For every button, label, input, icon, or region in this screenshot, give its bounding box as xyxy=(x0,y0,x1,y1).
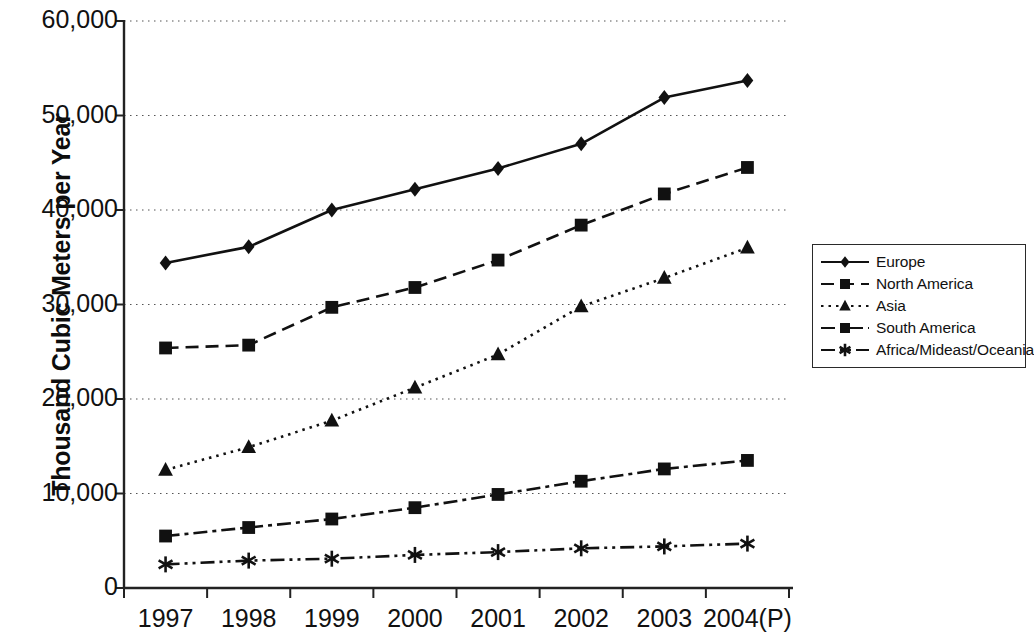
data-point-marker xyxy=(839,300,850,311)
data-point-marker xyxy=(740,240,755,254)
legend-item-north-america[interactable]: North America xyxy=(819,273,1017,295)
x-tick-label: 1998 xyxy=(221,604,277,633)
data-point-marker xyxy=(742,73,754,88)
legend-key-triangle-icon xyxy=(819,296,871,316)
data-point-marker xyxy=(242,339,255,352)
x-tick-label: 2002 xyxy=(553,604,609,633)
data-point-marker xyxy=(159,530,172,543)
data-point-marker xyxy=(492,254,505,267)
data-point-marker xyxy=(741,161,754,174)
y-axis-tick-labels: 60,00050,00040,00030,00020,00010,0000 xyxy=(0,0,118,631)
data-point-marker xyxy=(158,462,173,476)
y-tick-label: 40,000 xyxy=(8,194,118,223)
data-point-marker xyxy=(492,161,504,176)
data-point-marker xyxy=(159,342,172,355)
data-point-marker xyxy=(326,203,338,218)
data-point-marker xyxy=(575,475,588,488)
y-tick-label: 0 xyxy=(8,572,118,601)
series-line xyxy=(166,81,748,263)
legend-label: Africa/Mideast/Oceania xyxy=(871,341,1034,359)
data-point-marker xyxy=(242,521,255,534)
x-tick-label: 1997 xyxy=(138,604,194,633)
legend-label: Asia xyxy=(871,297,906,315)
legend-item-asia[interactable]: Asia xyxy=(819,295,1017,317)
chart-legend: EuropeNorth AmericaAsiaSouth AmericaAfri… xyxy=(812,244,1026,368)
legend-item-south-america[interactable]: South America xyxy=(819,317,1017,339)
legend-key-asterisk-icon xyxy=(819,340,871,360)
y-tick-label: 20,000 xyxy=(8,383,118,412)
legend-label: Europe xyxy=(871,253,925,271)
legend-label: North America xyxy=(871,275,973,293)
y-tick-label: 60,000 xyxy=(8,5,118,34)
data-point-marker xyxy=(409,182,421,197)
data-point-marker xyxy=(658,463,671,476)
y-tick-label: 10,000 xyxy=(8,478,118,507)
x-tick-label: 2004(P) xyxy=(703,604,792,633)
legend-item-europe[interactable]: Europe xyxy=(819,251,1017,273)
data-point-marker xyxy=(325,513,338,526)
data-point-marker xyxy=(658,90,670,105)
x-tick-label: 1999 xyxy=(304,604,360,633)
legend-key-square-icon xyxy=(819,274,871,294)
data-point-marker xyxy=(160,255,172,270)
data-point-marker xyxy=(840,279,850,289)
data-point-marker xyxy=(409,501,422,514)
data-point-marker xyxy=(741,454,754,467)
data-point-marker xyxy=(741,536,755,552)
data-point-marker xyxy=(575,136,587,151)
y-tick-label: 30,000 xyxy=(8,289,118,318)
legend-key-diamond-icon xyxy=(819,252,871,272)
data-point-marker xyxy=(325,301,338,314)
data-point-marker xyxy=(491,347,506,361)
data-point-marker xyxy=(575,219,588,232)
data-point-marker xyxy=(574,298,589,312)
data-point-marker xyxy=(408,380,423,394)
series-line xyxy=(166,544,748,565)
x-tick-label: 2000 xyxy=(387,604,443,633)
data-point-marker xyxy=(840,323,850,333)
x-tick-label: 2001 xyxy=(470,604,526,633)
legend-key-square-icon xyxy=(819,318,871,338)
y-tick-label: 50,000 xyxy=(8,100,118,129)
legend-item-africa-mideast-oceania[interactable]: Africa/Mideast/Oceania xyxy=(819,339,1017,361)
data-point-marker xyxy=(492,488,505,501)
data-point-marker xyxy=(658,188,671,201)
data-point-marker xyxy=(324,413,339,427)
data-point-marker xyxy=(840,256,849,268)
legend-label: South America xyxy=(871,319,976,337)
data-point-marker xyxy=(409,281,422,294)
x-tick-label: 2003 xyxy=(637,604,693,633)
data-point-marker xyxy=(243,239,255,254)
